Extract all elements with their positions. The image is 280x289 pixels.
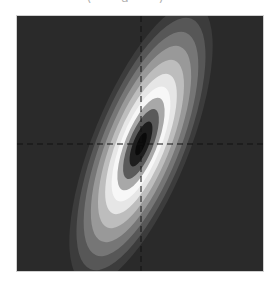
chart-title-clipped: (a) bbox=[0, 0, 280, 5]
contour-plot-area bbox=[16, 15, 264, 272]
contour-plot-svg bbox=[17, 16, 264, 272]
